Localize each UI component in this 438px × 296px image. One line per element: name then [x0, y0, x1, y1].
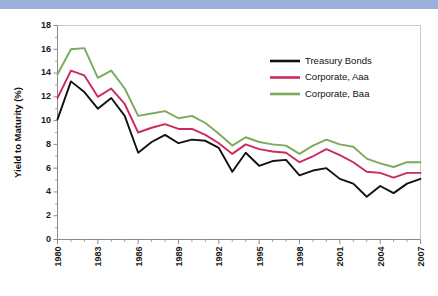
y-tick-label: 12	[41, 91, 51, 101]
x-tick-label: 1995	[255, 247, 265, 267]
legend-label-2: Corporate, Aaa	[305, 71, 370, 82]
y-axis-title: Yield to Maturity (%)	[12, 87, 23, 178]
x-tick-label: 2001	[335, 247, 345, 267]
y-tick-label: 18	[41, 20, 51, 30]
top-banner-strip	[0, 0, 438, 9]
y-tick-label: 16	[41, 44, 51, 54]
x-tick-label: 2004	[376, 247, 386, 267]
y-axis-ticks	[54, 26, 58, 240]
figure-container: 024681012141618 198019831986198919921995…	[0, 0, 438, 296]
legend-label-1: Treasury Bonds	[305, 55, 372, 66]
y-tick-label: 14	[41, 67, 51, 77]
yield-to-maturity-line-chart: 024681012141618 198019831986198919921995…	[0, 9, 438, 296]
y-tick-label: 6	[46, 163, 51, 173]
y-tick-label: 4	[46, 186, 51, 196]
legend-label-3: Corporate, Baa	[305, 88, 370, 99]
y-axis-title-text: Yield to Maturity (%)	[12, 87, 23, 178]
y-tick-label: 2	[46, 210, 51, 220]
y-tick-label: 0	[46, 234, 51, 244]
x-tick-label: 1998	[295, 247, 305, 267]
x-axis-tick-labels: 1980198319861989199219951998200120042007	[53, 247, 426, 267]
x-tick-label: 1989	[174, 247, 184, 267]
series-line-treasury-bonds	[58, 81, 421, 196]
chart-stage: 024681012141618 198019831986198919921995…	[0, 9, 438, 296]
chart-legend: Treasury BondsCorporate, AaaCorporate, B…	[270, 55, 372, 99]
y-tick-label: 8	[46, 139, 51, 149]
x-axis-ticks	[58, 240, 421, 245]
x-tick-label: 1986	[134, 247, 144, 267]
x-tick-label: 1980	[53, 247, 63, 267]
y-axis-tick-labels: 024681012141618	[41, 20, 51, 244]
x-tick-label: 1983	[93, 247, 103, 267]
x-tick-label: 2007	[416, 247, 426, 267]
y-tick-label: 10	[41, 115, 51, 125]
x-tick-label: 1992	[214, 247, 224, 267]
